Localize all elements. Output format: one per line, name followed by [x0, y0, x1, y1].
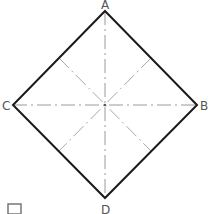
vertex-label-b: B [200, 99, 208, 113]
rhombus-diagram: A B C D [0, 0, 217, 214]
vertex-label-d: D [101, 203, 110, 214]
corner-box-icon [8, 204, 21, 214]
center-point [104, 104, 106, 106]
vertex-label-c: C [2, 99, 10, 113]
vertex-label-a: A [101, 0, 110, 12]
